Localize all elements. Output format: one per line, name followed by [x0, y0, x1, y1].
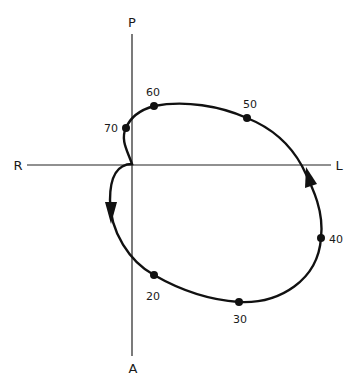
axis-label-left: R — [13, 158, 22, 173]
point-30 — [235, 298, 243, 306]
point-60 — [150, 102, 158, 110]
loop-diagram: P A R L 20 30 40 50 60 70 — [0, 0, 360, 388]
label-50: 50 — [243, 98, 257, 111]
label-60: 60 — [146, 86, 160, 99]
label-40: 40 — [329, 233, 343, 246]
arrow-up-icon — [305, 167, 317, 188]
point-50 — [243, 114, 251, 122]
label-70: 70 — [104, 122, 118, 135]
axis-label-right: L — [335, 158, 343, 173]
point-40 — [317, 234, 325, 242]
axis-label-bottom: A — [129, 361, 138, 376]
point-20 — [150, 271, 158, 279]
point-70 — [122, 124, 130, 132]
arrow-down-icon — [105, 202, 117, 224]
axis-label-top: P — [128, 15, 136, 30]
label-20: 20 — [146, 290, 160, 303]
label-30: 30 — [233, 313, 247, 326]
loop-curve — [110, 104, 322, 302]
